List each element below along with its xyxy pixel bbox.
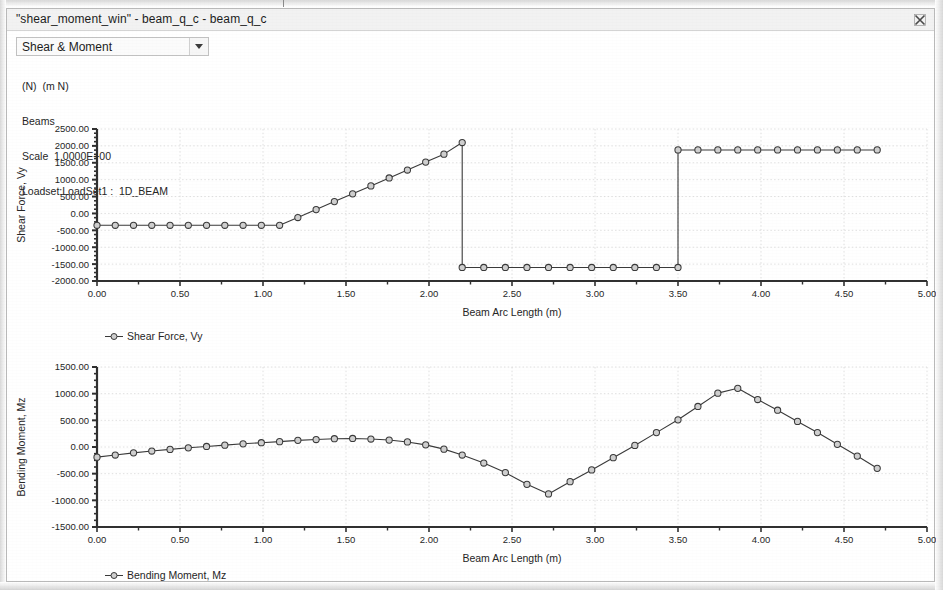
data-point-marker [834, 147, 840, 153]
y-tick-label: 1000.00 [55, 174, 89, 185]
data-point-marker [240, 222, 246, 228]
data-point-marker [675, 147, 681, 153]
data-point-marker [481, 460, 487, 466]
data-point-marker [368, 436, 374, 442]
data-point-marker [167, 222, 173, 228]
x-tick-label: 2.00 [420, 534, 439, 545]
data-point-marker [295, 437, 301, 443]
data-point-marker [794, 147, 800, 153]
x-tick-label: 1.00 [254, 288, 273, 299]
x-tick-label: 0.00 [88, 288, 107, 299]
data-point-marker [834, 441, 840, 447]
data-point-marker [331, 199, 337, 205]
close-icon[interactable] [913, 13, 927, 27]
plot-type-dropdown[interactable]: Shear & Moment [16, 37, 209, 56]
data-point-marker [459, 139, 465, 145]
data-point-marker [94, 222, 100, 228]
data-point-marker [386, 437, 392, 443]
y-tick-label: -500.00 [57, 225, 89, 236]
window-titlebar[interactable]: "shear_moment_win" - beam_q_c - beam_q_c [7, 9, 934, 31]
data-point-marker [481, 264, 487, 270]
data-point-marker [222, 222, 228, 228]
shear-moment-window: "shear_moment_win" - beam_q_c - beam_q_c… [6, 8, 935, 582]
legend-marker-icon [105, 571, 123, 580]
data-point-marker [675, 264, 681, 270]
legend-moment-label: Bending Moment, Mz [127, 569, 226, 581]
x-tick-label: 3.00 [586, 288, 605, 299]
bending-moment-plot: -1500.00-1000.00-500.000.00500.001000.00… [7, 349, 936, 589]
gridlines [97, 129, 927, 281]
data-point-marker [775, 407, 781, 413]
gridlines [97, 367, 927, 527]
x-tick-label: 4.00 [752, 534, 771, 545]
x-axis-label: Beam Arc Length (m) [462, 552, 561, 564]
data-point-marker [203, 222, 209, 228]
y-tick-label: -2000.00 [51, 275, 89, 286]
x-tick-label: 5.00 [918, 288, 936, 299]
series-line [97, 388, 877, 494]
series-line [97, 143, 877, 268]
x-tick-label: 4.50 [835, 288, 854, 299]
data-point-marker [524, 481, 530, 487]
data-point-marker [331, 436, 337, 442]
y-tick-label: 2000.00 [55, 140, 89, 151]
data-point-marker [459, 452, 465, 458]
y-tick-label: 2500.00 [55, 123, 89, 134]
data-point-marker [589, 264, 595, 270]
data-point-marker [277, 439, 283, 445]
data-point-marker [149, 222, 155, 228]
x-tick-label: 2.00 [420, 288, 439, 299]
data-point-marker [545, 264, 551, 270]
data-point-marker [258, 222, 264, 228]
data-point-marker [423, 442, 429, 448]
data-point-marker [222, 442, 228, 448]
data-point-marker [653, 430, 659, 436]
x-axis-ticks: 0.000.501.001.502.002.503.003.504.004.50… [88, 527, 936, 545]
y-axis-ticks: -1500.00-1000.00-500.000.00500.001000.00… [51, 361, 97, 532]
data-point-marker [240, 441, 246, 447]
x-tick-label: 3.50 [669, 288, 688, 299]
data-point-marker [350, 435, 356, 441]
x-tick-label: 5.00 [918, 534, 936, 545]
y-tick-label: -1000.00 [51, 242, 89, 253]
data-point-marker [203, 443, 209, 449]
data-point-marker [441, 446, 447, 452]
data-point-marker [313, 436, 319, 442]
legend-shear-force: Shear Force, Vy [105, 329, 202, 342]
data-point-marker [814, 147, 820, 153]
data-point-marker [112, 452, 118, 458]
data-point-marker [502, 264, 508, 270]
data-point-marker [755, 147, 761, 153]
shear-force-plot: -2000.00-1500.00-1000.00-500.000.00500.0… [7, 113, 936, 328]
x-tick-label: 4.00 [752, 288, 771, 299]
legend-shear-label: Shear Force, Vy [127, 330, 202, 342]
x-tick-label: 0.50 [171, 534, 190, 545]
chevron-down-icon[interactable] [189, 38, 208, 55]
data-point-marker [185, 222, 191, 228]
shear-force-plot-canvas: -2000.00-1500.00-1000.00-500.000.00500.0… [7, 113, 936, 328]
x-tick-label: 1.50 [337, 534, 356, 545]
data-point-marker [295, 214, 301, 220]
data-point-marker [459, 264, 465, 270]
data-point-marker [755, 396, 761, 402]
data-point-marker [874, 465, 880, 471]
data-point-marker [368, 183, 374, 189]
data-point-marker [589, 467, 595, 473]
data-point-marker [735, 147, 741, 153]
legend-marker-icon [105, 332, 123, 341]
data-point-marker [545, 491, 551, 497]
data-point-marker [423, 159, 429, 165]
data-point-marker [794, 418, 800, 424]
x-tick-label: 2.50 [503, 288, 522, 299]
data-point-marker [567, 479, 573, 485]
data-point-marker [502, 470, 508, 476]
scan-artifact-mark [283, 0, 284, 7]
data-point-marker [610, 264, 616, 270]
plot-type-dropdown-value: Shear & Moment [22, 40, 112, 54]
legend-bending-moment: Bending Moment, Mz [105, 568, 226, 581]
data-point-marker [112, 222, 118, 228]
data-point-marker [94, 454, 100, 460]
data-point-marker [185, 445, 191, 451]
data-point-marker [715, 147, 721, 153]
data-point-marker [130, 222, 136, 228]
